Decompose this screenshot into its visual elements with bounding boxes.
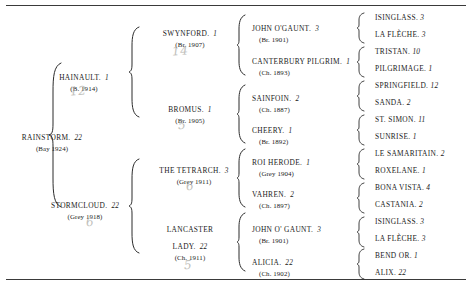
leaf-figure-number: 11 xyxy=(418,115,425,124)
node-bromus: BROMUS. 1 (Br. 1905) xyxy=(144,98,236,125)
leaf-name: LE SAMARITAIN. xyxy=(375,149,438,158)
node-detail: (Br. 1905) xyxy=(144,117,236,125)
brace-leaf-3 xyxy=(356,80,366,112)
leaf-name: SUNRISE. xyxy=(375,132,410,141)
node-figure-number: 2 xyxy=(296,95,300,103)
leaf-name: LA FLÈCHE. xyxy=(375,234,420,243)
top-rule xyxy=(6,5,466,6)
leaf-name: ALIX. xyxy=(375,268,396,277)
leaf-figure-number: 12 xyxy=(430,81,438,90)
node-figure-number: 22 xyxy=(285,259,293,267)
leaf-figure-number: 1 xyxy=(413,132,417,141)
node-name: LANCASTER xyxy=(144,226,236,235)
node-roi-herode: ROI HERODE. 1 (Grey 1904) xyxy=(252,151,310,178)
leaf-la-fleche-1: LA FLÈCHE. 3 xyxy=(375,30,426,39)
node-cheery: CHEERY. 1 (Br. 1892) xyxy=(252,119,292,146)
brace-lancaster-lady xyxy=(236,212,248,272)
node-detail: (Bay 1924) xyxy=(0,145,104,153)
leaf-figure-number: 1 xyxy=(428,64,432,73)
brace-leaf-2 xyxy=(356,46,366,78)
pencil-annotation-hainault: 12 xyxy=(70,83,87,98)
leaf-name: ISINGLASS. xyxy=(375,13,418,22)
node-detail: (Br. 1901) xyxy=(252,36,319,44)
pedigree-chart: RAINSTORM. 22 (Bay 1924) HAINAULT. 1 (B.… xyxy=(0,0,472,287)
node-detail: (Ch. 1893) xyxy=(252,69,350,77)
node-detail: (Ch. 1887) xyxy=(252,106,299,114)
node-name: STORMCLOUD. xyxy=(51,201,107,210)
bottom-rule xyxy=(6,279,466,280)
leaf-figure-number: 2 xyxy=(407,98,411,107)
leaf-tristan: TRISTAN. 10 xyxy=(375,47,420,56)
leaf-name: LA FLÈCHE. xyxy=(375,30,420,39)
node-name: BROMUS. xyxy=(168,105,204,114)
leaf-figure-number: 22 xyxy=(398,268,406,277)
leaf-name: ST. SIMON. xyxy=(375,115,416,124)
leaf-name: ROXELANE. xyxy=(375,166,420,175)
leaf-figure-number: 2 xyxy=(441,149,445,158)
node-figure-number: 3 xyxy=(317,226,321,234)
leaf-name: TRISTAN. xyxy=(375,47,410,56)
node-swynford: SWYNFORD. 1 (Br. 1907) xyxy=(144,22,236,49)
node-canterbury-pilgrim: CANTERBURY PILGRIM. 1 (Ch. 1893) xyxy=(252,50,350,77)
pencil-annotation-swynford: 14 xyxy=(172,43,189,58)
node-figure-number: 1 xyxy=(289,127,293,135)
node-figure-number: 1 xyxy=(105,74,109,82)
node-vahren: VAHREN. 2 (Ch. 1897) xyxy=(252,183,294,210)
leaf-alix: ALIX. 22 xyxy=(375,268,406,277)
brace-leaf-6 xyxy=(356,182,366,214)
leaf-figure-number: 3 xyxy=(420,13,424,22)
leaf-bona-vista: BONA VISTA. 4 xyxy=(375,183,430,192)
node-figure-number: 1 xyxy=(213,30,217,38)
brace-leaf-4 xyxy=(356,114,366,146)
brace-leaf-5 xyxy=(356,148,366,180)
leaf-sanda: SANDA. 2 xyxy=(375,98,411,107)
pencil-annotation-bromus: 5 xyxy=(178,118,187,133)
leaf-figure-number: 3 xyxy=(422,234,426,243)
node-name: JOHN O'GAUNT. xyxy=(252,24,311,33)
leaf-figure-number: 1 xyxy=(422,166,426,175)
node-lancaster-lady: LANCASTER LADY. 22 (Ch. 1911) xyxy=(144,226,236,262)
node-name-line2: LADY. xyxy=(173,242,196,251)
node-figure-number: 3 xyxy=(315,25,319,33)
node-name: ROI HERODE. xyxy=(252,158,302,167)
node-john-ogaunt-1: JOHN O'GAUNT. 3 (Br. 1901) xyxy=(252,17,319,44)
leaf-name: PILGRIMAGE. xyxy=(375,64,426,73)
node-john-ogaunt-2: JOHN O' GAUNT. 3 (Br. 1901) xyxy=(252,218,321,245)
node-name: THE TETRARCH. xyxy=(159,166,220,175)
node-figure-number: 22 xyxy=(75,134,83,142)
node-name: JOHN O' GAUNT. xyxy=(252,225,313,234)
pencil-annotation-tetrarch: 6 xyxy=(186,179,195,194)
leaf-isinglass-2: ISINGLASS. 3 xyxy=(375,217,424,226)
node-detail: (Br. 1901) xyxy=(252,237,321,245)
node-name: ALICIA. xyxy=(252,258,281,267)
brace-leaf-7 xyxy=(356,216,366,248)
pencil-annotation-lancaster-lady: 5 xyxy=(184,258,193,273)
node-the-tetrarch: THE TETRARCH. 3 (Grey 1911) xyxy=(144,159,244,186)
node-figure-number: 1 xyxy=(208,106,212,114)
node-name: CHEERY. xyxy=(252,126,285,135)
leaf-castania: CASTANIA. 2 xyxy=(375,200,423,209)
leaf-springfield: SPRINGFIELD. 12 xyxy=(375,81,438,90)
leaf-st-simon: ST. SIMON. 11 xyxy=(375,115,425,124)
node-detail: (Grey 1904) xyxy=(252,170,310,178)
node-subject-rainstorm: RAINSTORM. 22 (Bay 1924) xyxy=(0,126,104,153)
leaf-bend-or: BEND OR. 1 xyxy=(375,251,418,260)
node-name: VAHREN. xyxy=(252,190,286,199)
leaf-name: SPRINGFIELD. xyxy=(375,81,428,90)
node-figure-number: 22 xyxy=(200,243,208,251)
pencil-annotation-stormcloud: 6 xyxy=(86,215,95,230)
brace-swynford xyxy=(236,14,248,76)
leaf-isinglass-1: ISINGLASS. 3 xyxy=(375,13,424,22)
leaf-figure-number: 10 xyxy=(412,47,420,56)
brace-bromus xyxy=(236,84,248,144)
node-name: RAINSTORM. xyxy=(22,133,71,142)
leaf-roxelane: ROXELANE. 1 xyxy=(375,166,426,175)
leaf-figure-number: 1 xyxy=(414,251,418,260)
brace-leaf-1 xyxy=(356,12,366,44)
node-name: SWYNFORD. xyxy=(163,29,209,38)
node-detail: (Br. 1907) xyxy=(144,41,236,49)
node-figure-number: 2 xyxy=(290,191,294,199)
node-name: SAINFOIN. xyxy=(252,94,292,103)
leaf-figure-number: 4 xyxy=(426,183,430,192)
leaf-name: CASTANIA. xyxy=(375,200,417,209)
